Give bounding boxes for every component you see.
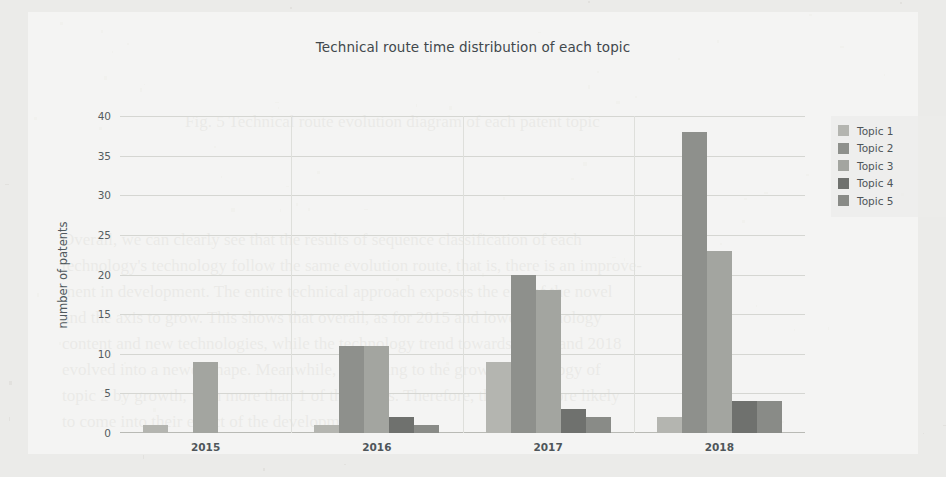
paper-speck bbox=[263, 468, 265, 470]
bar-2017-topic-1 bbox=[486, 362, 511, 433]
paper-speck bbox=[923, 433, 924, 434]
y-axis-tick-label: 5 bbox=[104, 387, 111, 399]
x-axis-tick-label: 2018 bbox=[705, 441, 734, 453]
chart-legend: Topic 1Topic 2Topic 3Topic 4Topic 5 bbox=[831, 116, 946, 217]
y-axis-label-text: number of patents bbox=[55, 221, 69, 328]
bar-2017-topic-5 bbox=[586, 417, 611, 433]
bar-2017-topic-4 bbox=[561, 409, 586, 433]
bar-2016-topic-3 bbox=[364, 346, 389, 433]
y-axis-tick-label: 0 bbox=[104, 427, 111, 439]
bar-2018-topic-2 bbox=[682, 132, 707, 433]
y-axis-tick-label: 35 bbox=[98, 150, 111, 162]
legend-item-topic-1[interactable]: Topic 1 bbox=[838, 122, 946, 140]
paper-speck bbox=[5, 184, 9, 185]
legend-item-topic-5[interactable]: Topic 5 bbox=[838, 192, 946, 210]
legend-color-swatch bbox=[838, 125, 849, 136]
x-axis-tick-label: 2015 bbox=[191, 441, 220, 453]
chart-title: Technical route time distribution of eac… bbox=[28, 39, 918, 55]
y-axis-tick-label: 20 bbox=[98, 269, 111, 281]
legend-item-topic-3[interactable]: Topic 3 bbox=[838, 157, 946, 175]
y-axis-label: number of patents bbox=[54, 116, 70, 433]
x-axis-tick-label: 2017 bbox=[534, 441, 563, 453]
legend-color-swatch bbox=[838, 160, 849, 171]
bar-2016-topic-2 bbox=[339, 346, 364, 433]
paper-speck bbox=[9, 381, 12, 385]
y-axis-tick-label: 30 bbox=[98, 189, 111, 201]
bar-2016-topic-5 bbox=[414, 425, 439, 433]
bar-group-2016: 2016 bbox=[291, 116, 462, 433]
paper-speck bbox=[143, 455, 144, 459]
chart-panel: Technical route time distribution of eac… bbox=[28, 12, 918, 454]
paper-speck bbox=[900, 2, 902, 3]
bar-group-2018: 2018 bbox=[634, 116, 805, 433]
bar-2018-topic-1 bbox=[657, 417, 682, 433]
legend-item-topic-4[interactable]: Topic 4 bbox=[838, 175, 946, 193]
legend-item-label: Topic 3 bbox=[857, 160, 893, 172]
x-axis-tick-label: 2016 bbox=[362, 441, 391, 453]
legend-color-swatch bbox=[838, 195, 849, 206]
legend-item-label: Topic 1 bbox=[857, 125, 893, 137]
legend-color-swatch bbox=[838, 143, 849, 154]
paper-speck bbox=[290, 7, 292, 8]
bar-group-2017: 2017 bbox=[463, 116, 634, 433]
bar-2018-topic-3 bbox=[707, 251, 732, 433]
bar-2015-topic-1 bbox=[143, 425, 168, 433]
legend-item-label: Topic 4 bbox=[857, 177, 893, 189]
bar-group-2015: 2015 bbox=[120, 116, 291, 433]
bar-2018-topic-4 bbox=[732, 401, 757, 433]
bar-2017-topic-2 bbox=[511, 275, 536, 434]
y-axis-tick-label: 10 bbox=[98, 348, 111, 360]
bar-2015-topic-3 bbox=[193, 362, 218, 433]
y-axis-tick-label: 40 bbox=[98, 110, 111, 122]
paper-speck bbox=[588, 1, 590, 3]
legend-color-swatch bbox=[838, 178, 849, 189]
bar-2016-topic-1 bbox=[314, 425, 339, 433]
paper-speck bbox=[943, 425, 946, 426]
legend-item-topic-2[interactable]: Topic 2 bbox=[838, 140, 946, 158]
legend-item-label: Topic 5 bbox=[857, 195, 893, 207]
y-axis-tick-label: 25 bbox=[98, 229, 111, 241]
paper-speck bbox=[344, 464, 346, 466]
legend-item-label: Topic 2 bbox=[857, 142, 893, 154]
bar-2017-topic-3 bbox=[536, 290, 561, 433]
paper-speck bbox=[9, 417, 10, 421]
bar-2016-topic-4 bbox=[389, 417, 414, 433]
y-axis-tick-label: 15 bbox=[98, 308, 111, 320]
bar-2018-topic-5 bbox=[757, 401, 782, 433]
plot-area: 05101520253035402015201620172018 bbox=[120, 116, 805, 433]
